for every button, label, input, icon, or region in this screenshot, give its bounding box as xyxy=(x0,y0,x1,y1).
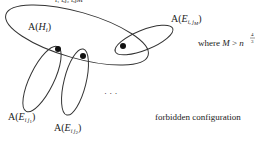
diagram-svg: i₁ i,j₂ i,jM A(Hi) A(Ei, jM) where M > n… xyxy=(0,0,263,141)
label-ej2: A(Ei j2) xyxy=(54,122,81,135)
label-ejm: A(Ei, jM) xyxy=(171,13,202,26)
ellipse-ej1 xyxy=(15,41,68,116)
ellipse-h xyxy=(0,0,154,78)
ellipse-ejm xyxy=(112,19,177,61)
ellipsis: · · · xyxy=(104,88,118,98)
label-ej1: A(Ei j1) xyxy=(8,111,35,124)
dot-1 xyxy=(55,46,61,52)
condition-text: where M > n xyxy=(198,38,244,48)
ellipse-ej2 xyxy=(56,46,94,117)
dot-2 xyxy=(80,53,86,59)
exponent-num: 4 xyxy=(251,32,254,37)
label-hi: A(Hi) xyxy=(28,21,51,34)
caption: forbidden configuration xyxy=(155,112,241,122)
dot-3 xyxy=(120,43,126,49)
top-fragment: i₁ i,j₂ i,jM xyxy=(55,0,84,4)
diagram: i₁ i,j₂ i,jM A(Hi) A(Ei, jM) where M > n… xyxy=(0,0,263,141)
exponent-den: 3 xyxy=(251,39,254,44)
